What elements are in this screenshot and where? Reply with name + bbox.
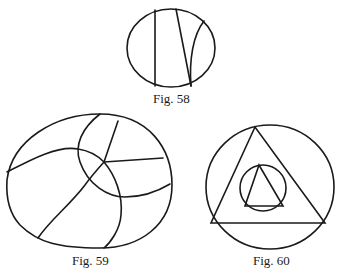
figure-60-drawing: [206, 125, 334, 249]
figure-59-caption: Fig. 59: [72, 253, 109, 269]
figures-canvas: [0, 0, 343, 272]
figure-58-drawing: [127, 9, 215, 87]
figure-60-caption: Fig. 60: [253, 253, 290, 269]
figure-59-drawing: [7, 114, 172, 248]
figure-58-caption: Fig. 58: [153, 91, 190, 107]
